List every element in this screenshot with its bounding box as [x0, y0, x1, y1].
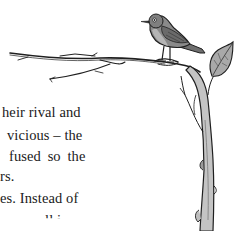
bird-on-branch-illustration — [0, 0, 235, 231]
leaf-icon — [210, 42, 233, 76]
branch-icon — [10, 53, 200, 82]
bird-icon — [141, 14, 205, 62]
tree-trunk-icon — [180, 66, 216, 231]
book-page: heir rival and vicious – the fused so th… — [0, 0, 235, 231]
